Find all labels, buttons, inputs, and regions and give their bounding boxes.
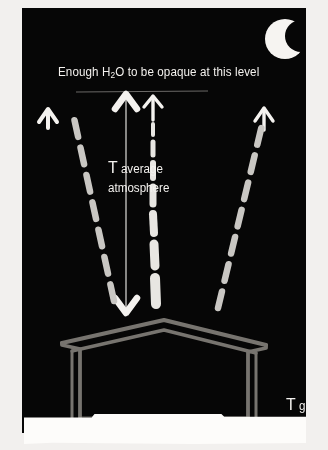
diagram-panel: Enough H2O to be opaque at this level T …	[22, 8, 306, 433]
left-solid-emission-arrow	[39, 109, 57, 128]
center-solid-emission-arrow	[144, 96, 162, 120]
center-dashed-radiation-arrow	[153, 124, 156, 304]
atmosphere-depth-double-arrow	[115, 94, 137, 313]
t-ground-label: T ground	[286, 395, 306, 415]
t-average-atmosphere-label: T averageatmosphere	[108, 158, 169, 198]
opaque-level-label: Enough H2O to be opaque at this level	[58, 65, 259, 80]
ground-strip	[24, 414, 306, 444]
right-dashed-radiation-arrow	[218, 125, 262, 308]
figure-stage: Enough H2O to be opaque at this level T …	[0, 0, 328, 450]
barn-house-icon	[62, 320, 266, 419]
opaque-level-line	[76, 91, 208, 92]
left-dashed-radiation-arrow	[74, 118, 114, 301]
crescent-moon-icon	[258, 13, 306, 68]
